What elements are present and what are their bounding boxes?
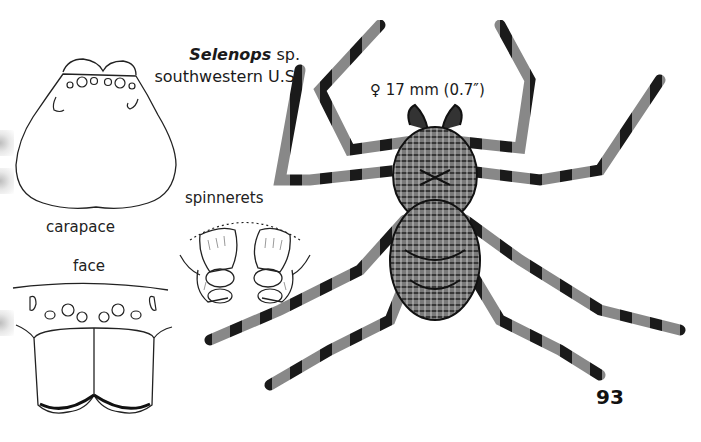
face-label: face [73,257,105,275]
page-number: 93 [596,385,624,409]
spider-illustration-icon [200,20,690,400]
face-drawing-icon [10,280,175,420]
carapace-label: carapace [46,218,115,236]
